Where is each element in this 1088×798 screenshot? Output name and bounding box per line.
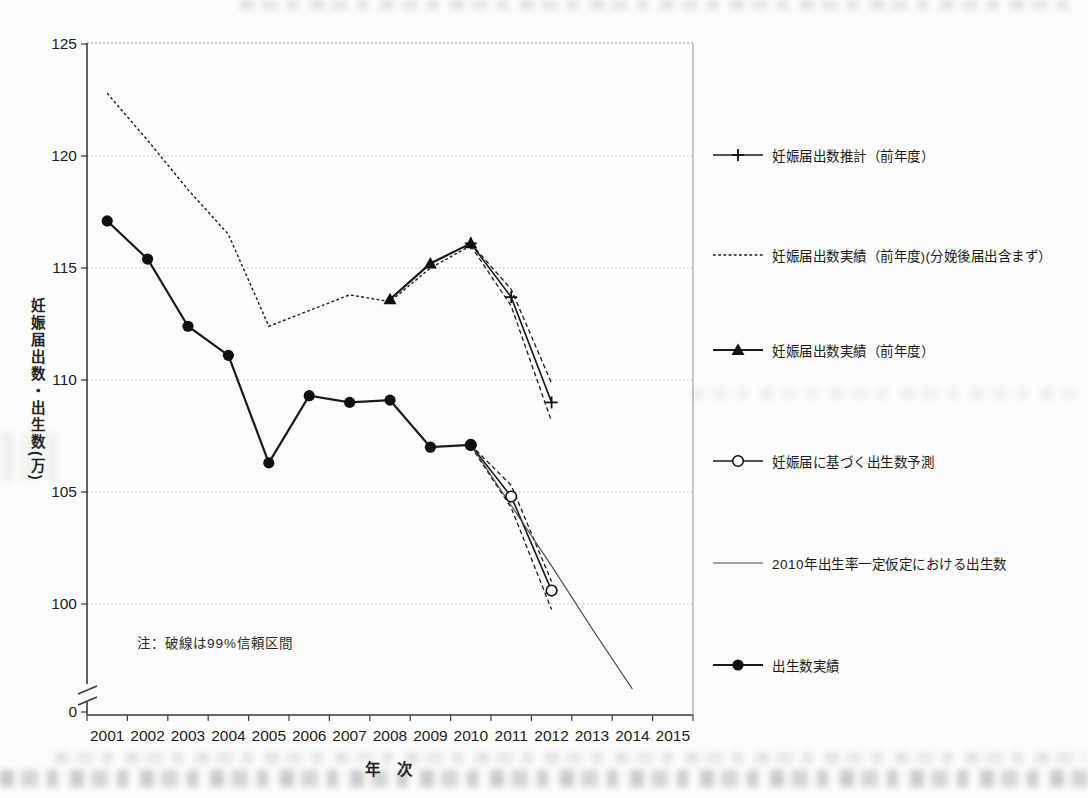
y-tick-label: 115: [52, 259, 77, 276]
x-tick-label: 2015: [656, 727, 690, 744]
x-tick-label: 2005: [252, 727, 286, 744]
y-axis-title: 妊娠届出数・出生数(万): [26, 298, 47, 528]
chart-plot: 1251201151101051000200120022003200420052…: [0, 0, 1088, 798]
y-axis-break: [78, 684, 97, 705]
x-tick-label: 2013: [575, 727, 609, 744]
scanned-chart-figure: 1251201151101051000200120022003200420052…: [0, 0, 1088, 798]
x-tick-label: 2012: [534, 727, 568, 744]
series-line-pregnancy-notifications-actual: [390, 243, 471, 299]
x-tick-label: 2011: [495, 727, 528, 744]
series-lines: [107, 93, 632, 689]
y-tick-label: 125: [51, 35, 77, 52]
series-line-births-actual: [107, 221, 471, 463]
x-tick-label: 2002: [130, 727, 164, 744]
y-tick-label: 110: [52, 371, 77, 388]
x-tick-label: 2010: [454, 727, 489, 744]
series-line-pregnancy-notifications-actual-excl-postpartum: [107, 93, 471, 326]
x-tick-label: 2006: [292, 727, 326, 744]
x-tick-label: 2008: [373, 727, 407, 744]
x-tick-label: 2014: [615, 727, 650, 744]
x-axis-title: 年 次: [312, 757, 472, 779]
series-line-pregnancy-notifications-estimate: [471, 243, 552, 402]
y-tick-label: 100: [51, 595, 77, 612]
axes: [81, 43, 693, 721]
x-tick-label: 2003: [171, 727, 205, 744]
confidence-interval-note: 注：破線は99%信頼区間: [137, 632, 293, 652]
y-tick-label: 105: [51, 483, 77, 500]
x-tick-label: 2007: [332, 727, 366, 744]
series-line-births-constant-2010-fertility: [471, 445, 633, 689]
x-tick-label: 2001: [90, 727, 124, 744]
series-line-births-forecast-from-notifications: [471, 445, 552, 591]
y-tick-label: 0: [68, 703, 77, 720]
x-tick-label: 2009: [413, 727, 447, 744]
x-tick-label: 2004: [211, 727, 246, 744]
gridlines: [87, 43, 693, 715]
y-tick-label: 120: [51, 147, 77, 164]
